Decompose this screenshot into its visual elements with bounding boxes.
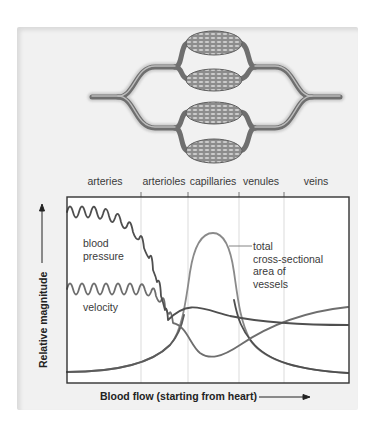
label-cross-section-line1: total — [253, 240, 323, 253]
label-blood-pressure: blood pressure — [83, 237, 124, 262]
x-axis-label: Blood flow (starting from heart) — [100, 390, 257, 402]
region-label-veins: veins — [304, 175, 329, 187]
label-cross-section-line2: cross-sectional — [253, 253, 323, 266]
vessel-illustration — [0, 0, 376, 175]
region-label-venules: venules — [243, 175, 279, 187]
label-blood-pressure-line1: blood — [83, 237, 124, 250]
label-cross-section-line3: area of — [253, 265, 323, 278]
label-velocity: velocity — [83, 301, 118, 314]
y-axis-label: Relative magnitude — [37, 272, 49, 368]
label-cross-sectional-area: total cross-sectional area of vessels — [253, 240, 323, 290]
label-cross-section-line4: vessels — [253, 278, 323, 291]
region-label-arterioles: arterioles — [142, 175, 185, 187]
region-label-capillaries: capillaries — [190, 175, 237, 187]
label-blood-pressure-line2: pressure — [83, 250, 124, 263]
capillary-beds — [186, 31, 242, 163]
region-label-arteries: arteries — [87, 175, 122, 187]
